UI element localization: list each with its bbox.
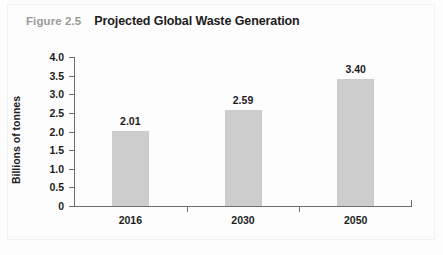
x-axis-tick-label: 2050 <box>316 214 396 226</box>
y-axis-tick <box>69 57 74 58</box>
y-axis-tick-label: 4.0 <box>22 51 64 63</box>
y-axis-tick-label: 0.5 <box>22 181 64 193</box>
y-axis-tick <box>69 76 74 77</box>
x-axis-tick-label: 2016 <box>90 214 170 226</box>
y-axis-tick-label: 0 <box>22 200 64 212</box>
x-axis-end-tick <box>411 200 412 207</box>
x-axis-tick <box>187 207 188 212</box>
y-axis-tick <box>69 132 74 133</box>
y-axis-tick-label: 2.5 <box>22 107 64 119</box>
bar-value-label: 2.59 <box>208 94 278 106</box>
bar <box>112 131 149 206</box>
y-axis-tick <box>69 113 74 114</box>
y-axis-tick <box>69 169 74 170</box>
figure-container: Figure 2.5 Projected Global Waste Genera… <box>0 0 443 255</box>
x-axis-tick-label: 2030 <box>203 214 283 226</box>
x-axis-line <box>74 206 412 207</box>
y-axis-tick <box>69 187 74 188</box>
bar-chart-plot: 00.51.01.52.02.53.03.54.0 Billions of to… <box>0 0 443 255</box>
y-axis-tick-label: 2.0 <box>22 126 64 138</box>
x-axis-tick <box>299 207 300 212</box>
bar-value-label: 2.01 <box>95 115 165 127</box>
bar-value-label: 3.40 <box>321 63 391 75</box>
y-axis-tick <box>69 206 74 207</box>
y-axis-tick-label: 1.0 <box>22 163 64 175</box>
y-axis-line <box>74 57 75 207</box>
y-axis-tick <box>69 150 74 151</box>
y-axis-tick <box>69 94 74 95</box>
y-axis-tick-label: 1.5 <box>22 144 64 156</box>
bar <box>225 110 262 206</box>
bar <box>337 79 374 206</box>
y-axis-label: Billions of tonnes <box>9 85 23 195</box>
y-axis-tick-label: 3.5 <box>22 70 64 82</box>
y-axis-tick-label: 3.0 <box>22 88 64 100</box>
